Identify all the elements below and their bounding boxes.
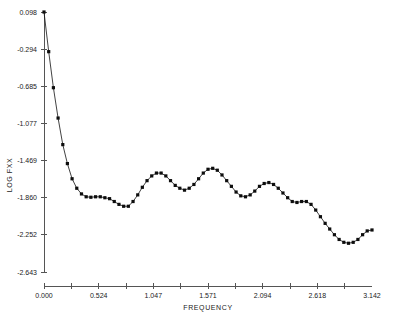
data-point <box>75 187 78 190</box>
series-line-logfxx <box>44 12 372 243</box>
data-point <box>309 203 312 206</box>
data-point <box>281 191 284 194</box>
data-point <box>136 193 139 196</box>
data-point <box>131 200 134 203</box>
y-tick-labels: 0.098-0.294-0.685-1.077-1.469-1.860-2.25… <box>17 9 37 276</box>
data-point <box>197 177 200 180</box>
chart-page: 0.098-0.294-0.685-1.077-1.469-1.860-2.25… <box>0 0 393 318</box>
data-point <box>188 187 191 190</box>
data-point <box>174 184 177 187</box>
data-point <box>113 200 116 203</box>
data-point <box>164 174 167 177</box>
data-point <box>272 183 275 186</box>
data-point <box>42 10 45 13</box>
x-tick-label: 2.094 <box>254 292 272 299</box>
data-point <box>361 233 364 236</box>
y-tick-label: -0.685 <box>17 83 37 90</box>
data-point <box>183 189 186 192</box>
data-point <box>155 171 158 174</box>
data-point <box>70 177 73 180</box>
y-tick-label: -2.643 <box>17 269 37 276</box>
data-point <box>169 179 172 182</box>
data-point <box>249 193 252 196</box>
data-point <box>61 143 64 146</box>
data-point <box>333 233 336 236</box>
data-point <box>160 171 163 174</box>
data-point <box>206 168 209 171</box>
data-point <box>324 222 327 225</box>
data-point <box>192 183 195 186</box>
y-axis-title: LOG FXX <box>6 158 13 193</box>
data-point <box>108 197 111 200</box>
data-point <box>47 50 50 53</box>
data-point <box>103 196 106 199</box>
series-markers-logfxx <box>42 10 373 244</box>
spectral-density-chart: 0.098-0.294-0.685-1.077-1.469-1.860-2.25… <box>0 0 393 318</box>
data-point <box>211 167 214 170</box>
data-point <box>370 228 373 231</box>
data-point <box>150 174 153 177</box>
x-tick-label: 0.000 <box>35 292 53 299</box>
x-tick-labels: 0.0000.5241.0471.5712.0942.6183.142 <box>35 292 381 299</box>
data-point <box>286 196 289 199</box>
data-point <box>366 229 369 232</box>
x-tick-label: 2.618 <box>309 292 327 299</box>
data-point <box>328 227 331 230</box>
data-point <box>89 196 92 199</box>
data-point <box>352 241 355 244</box>
data-point <box>216 169 219 172</box>
data-point <box>234 190 237 193</box>
data-point <box>239 194 242 197</box>
data-point <box>52 86 55 89</box>
y-tick-label: -1.860 <box>17 194 37 201</box>
data-series <box>42 10 373 244</box>
y-tick-label: -2.252 <box>17 231 37 238</box>
data-point <box>314 208 317 211</box>
y-tick-label: -1.077 <box>17 120 37 127</box>
data-point <box>225 179 228 182</box>
data-point <box>178 187 181 190</box>
x-axis-title: FREQUENCY <box>183 304 232 312</box>
data-point <box>80 192 83 195</box>
data-point <box>338 238 341 241</box>
x-tick-label: 1.571 <box>199 292 217 299</box>
data-point <box>258 185 261 188</box>
data-point <box>263 182 266 185</box>
data-point <box>117 203 120 206</box>
data-point <box>291 200 294 203</box>
data-point <box>277 187 280 190</box>
x-tick-label: 1.047 <box>145 292 163 299</box>
data-point <box>253 189 256 192</box>
data-point <box>145 179 148 182</box>
data-point <box>319 215 322 218</box>
y-tick-label: -0.294 <box>17 46 37 53</box>
data-point <box>267 181 270 184</box>
data-point <box>305 200 308 203</box>
y-axis: 0.098-0.294-0.685-1.077-1.469-1.860-2.25… <box>6 9 47 276</box>
data-point <box>244 195 247 198</box>
data-point <box>300 200 303 203</box>
y-tick-label: -1.469 <box>17 157 37 164</box>
data-point <box>94 195 97 198</box>
data-point <box>356 238 359 241</box>
data-point <box>66 162 69 165</box>
data-point <box>347 242 350 245</box>
data-point <box>220 173 223 176</box>
x-tick-label: 3.142 <box>363 292 381 299</box>
data-point <box>56 116 59 119</box>
data-point <box>127 205 130 208</box>
x-tick-label: 0.524 <box>90 292 108 299</box>
data-point <box>202 171 205 174</box>
x-axis: 0.0000.5241.0471.5712.0942.6183.142 FREQ… <box>35 283 381 312</box>
data-point <box>122 205 125 208</box>
data-point <box>99 195 102 198</box>
data-point <box>342 241 345 244</box>
y-tick-label: 0.098 <box>19 9 37 16</box>
data-point <box>230 185 233 188</box>
data-point <box>141 186 144 189</box>
data-point <box>85 195 88 198</box>
data-point <box>295 201 298 204</box>
